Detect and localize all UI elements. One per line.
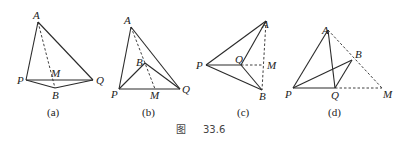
point-label-Q: Q (182, 83, 190, 95)
point-label-B: B (136, 56, 143, 68)
figure-caption-prefix: 图 (176, 124, 186, 135)
point-label-P: P (284, 88, 292, 100)
panel-caption: (a) (47, 106, 60, 119)
point-label-M: M (50, 67, 61, 79)
panel-a: A P Q B M (a) (16, 9, 104, 119)
point-label-Q: Q (96, 74, 104, 86)
point-label-A: A (123, 14, 131, 26)
segment-PB (26, 80, 55, 88)
panel-caption: (c) (237, 106, 250, 119)
point-label-A: A (321, 24, 329, 36)
point-label-Q: Q (331, 89, 339, 101)
point-label-A: A (261, 18, 269, 30)
point-label-M: M (149, 89, 160, 101)
panel-d: A B P Q M (d) (284, 24, 393, 119)
segment-BQ (55, 80, 93, 88)
segment-QB (241, 65, 262, 90)
segment-AP (26, 22, 38, 80)
segment-AB-dashed (262, 21, 266, 90)
point-label-B: B (355, 48, 362, 60)
point-label-M: M (266, 59, 277, 71)
point-label-Q: Q (235, 53, 243, 65)
point-label-A: A (32, 9, 40, 21)
segment-AQ (328, 30, 335, 88)
figure-33-6: A P Q B M (a) A P Q B M (b) A P Q M B (c… (0, 0, 409, 142)
point-label-P: P (195, 59, 203, 71)
panel-b: A P Q B M (b) (110, 14, 190, 119)
segment-AM-dashed (131, 27, 155, 89)
panel-c: A P Q M B (c) (195, 18, 277, 119)
point-label-M: M (382, 88, 393, 100)
segment-AQ (38, 22, 93, 80)
segment-AP (119, 27, 131, 89)
point-label-P: P (16, 74, 24, 86)
segment-PB (206, 65, 262, 90)
point-label-P: P (110, 88, 118, 100)
figure-caption-number: 33.6 (203, 124, 225, 135)
point-label-B: B (52, 89, 59, 101)
panel-caption: (b) (142, 106, 155, 119)
panel-caption: (d) (328, 106, 341, 119)
point-label-B: B (259, 90, 266, 102)
